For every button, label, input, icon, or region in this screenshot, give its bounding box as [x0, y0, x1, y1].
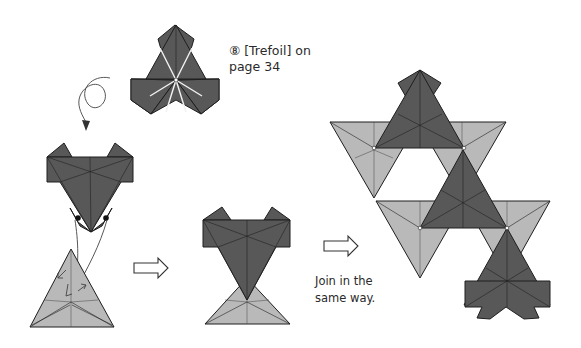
arrow-right-icon	[134, 258, 168, 278]
step-reference-label: ⑧ [Trefoil] on page 34	[229, 43, 349, 75]
join-instruction-line1: Join in the	[315, 273, 395, 290]
turn-over-arrow-icon	[79, 77, 110, 131]
step-reference-line1: ⑧ [Trefoil] on	[229, 43, 349, 59]
insert-step-figure	[30, 143, 133, 327]
join-instruction-label: Join in the same way.	[315, 273, 395, 307]
join-instruction-line2: same way.	[315, 290, 395, 307]
arrow-right-icon	[324, 236, 358, 256]
step-reference-line2: page 34	[229, 59, 349, 75]
trefoil-reference-figure	[131, 25, 219, 114]
joined-pair-figure	[203, 207, 290, 324]
origami-diagram: ⑧ [Trefoil] on page 34 Join in the same …	[0, 0, 581, 348]
